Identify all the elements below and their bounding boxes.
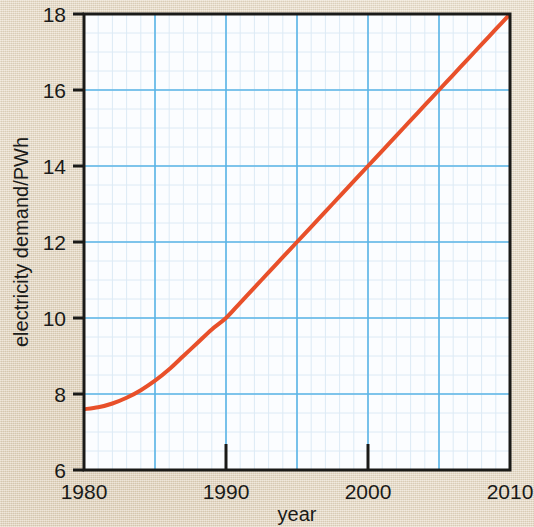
x-axis-tick-label: 2000 xyxy=(345,480,392,503)
x-axis-title: year xyxy=(278,503,317,525)
y-axis-tick-label: 12 xyxy=(43,231,66,254)
y-axis-tick-label: 8 xyxy=(54,383,66,406)
y-axis-tick-label: 18 xyxy=(43,3,66,26)
y-axis-tick-labels: 681012141618 xyxy=(43,3,67,482)
x-axis-tick-labels: 1980199020002010 xyxy=(61,480,534,503)
y-axis-title: electricity demand/PWh xyxy=(10,137,32,347)
y-axis-tick-label: 10 xyxy=(43,307,66,330)
y-axis-ticks xyxy=(73,14,84,470)
x-axis-tick-label: 1980 xyxy=(61,480,108,503)
electricity-demand-line-chart: 681012141618 1980199020002010 electricit… xyxy=(0,0,534,527)
x-axis-tick-label: 2010 xyxy=(487,480,534,503)
y-axis-tick-label: 14 xyxy=(43,155,67,178)
y-axis-tick-label: 6 xyxy=(54,459,66,482)
y-axis-tick-label: 16 xyxy=(43,79,66,102)
figure-background: 681012141618 1980199020002010 electricit… xyxy=(0,0,534,527)
x-axis-tick-label: 1990 xyxy=(203,480,250,503)
